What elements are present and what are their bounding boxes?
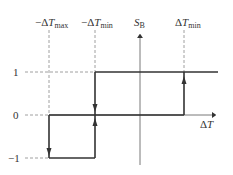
label-neg-dtmin: −ΔTmin [81, 17, 113, 30]
direction-arrows [47, 76, 187, 156]
tick-neg1: −1 [8, 153, 20, 164]
x-axis-label: ΔT [200, 119, 213, 130]
label-dtmin: ΔTmin [175, 17, 201, 30]
label-sb: SB [134, 17, 145, 30]
tick-0: 0 [13, 110, 19, 121]
label-neg-dtmax: −ΔTmax [35, 17, 68, 30]
tick-1: 1 [13, 67, 19, 78]
